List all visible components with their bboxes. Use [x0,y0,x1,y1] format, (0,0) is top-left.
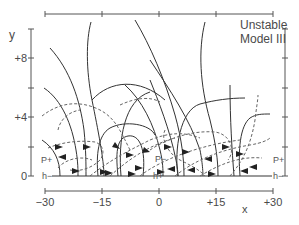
p-plus-right-label: P+ [273,156,284,165]
diagram-canvas: y +8 +4 0 −30 −15 0 +15 +30 x Unstable M… [0,0,299,225]
x-tick-neg15: −15 [87,197,117,208]
diagram-title: Unstable Model III [240,18,287,46]
x-tick-30: +30 [258,197,288,208]
y-tick-0: 0 [5,171,27,182]
x-tick-neg30: −30 [30,197,60,208]
x-axis-label: x [242,204,248,215]
title-line-1: Unstable [240,18,287,32]
p-plus-left-label: P+ [41,156,52,165]
x-tick-0: 0 [144,197,174,208]
title-line-2: Model III [240,32,287,46]
h-minus-right-label: h− [273,172,283,181]
y-axis-label: y [9,30,15,41]
field-lines [42,20,270,176]
p-minus-center-label: P− [155,155,166,164]
h-plus-center-label: h+ [153,172,163,181]
x-tick-15: +15 [201,197,231,208]
y-tick-4: +4 [5,112,27,123]
h-minus-left-label: h− [42,172,52,181]
y-tick-8: +8 [5,53,27,64]
